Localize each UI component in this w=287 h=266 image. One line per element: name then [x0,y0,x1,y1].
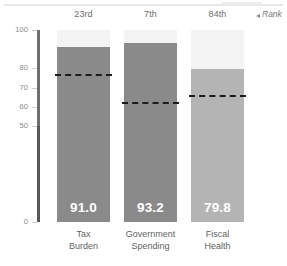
benchmark-dashed-line [55,74,112,76]
y-axis-tick-mark [32,88,37,89]
bar-track [191,30,244,69]
category-label: FiscalHealth [179,229,256,252]
benchmark-dashed-line [189,95,246,97]
bar-value-label: 93.2 [124,200,177,215]
bar-value-label: 79.8 [191,200,244,215]
category-label-line: Tax [45,229,122,241]
y-axis-tick-label: 70 [6,84,28,92]
y-axis-tick-label: 0 [6,218,28,226]
benchmark-dashed-line [122,102,179,104]
y-axis-tick-mark [32,107,37,108]
bar-track [57,30,110,47]
y-axis-tick-label: 80 [6,64,28,72]
category-label: TaxBurden [45,229,122,252]
y-axis-tick-label: 100 [6,26,28,34]
bar-track [124,30,177,43]
y-axis-tick-mark [32,68,37,69]
category-label-line: Fiscal [179,229,256,241]
category-label-line: Health [179,241,256,253]
plot-area: 10080706050091.0TaxBurden93.2GovernmentS… [0,0,287,266]
bar-value-label: 91.0 [57,200,110,215]
chart-container: 23rd 7th 84th Rank 10080706050091.0TaxBu… [0,0,287,266]
y-axis-spine-lower [37,126,40,222]
y-axis-tick-mark [32,126,37,127]
y-axis-tick-label: 50 [6,122,28,130]
bar-fiscal-health[interactable] [191,69,244,222]
y-axis-tick-mark [32,222,37,223]
category-label: GovernmentSpending [112,229,189,252]
category-label-line: Spending [112,241,189,253]
y-axis-tick-mark [32,30,37,31]
bar-government-spending[interactable] [124,43,177,222]
category-label-line: Government [112,229,189,241]
y-axis-tick-label: 60 [6,103,28,111]
category-label-line: Burden [45,241,122,253]
